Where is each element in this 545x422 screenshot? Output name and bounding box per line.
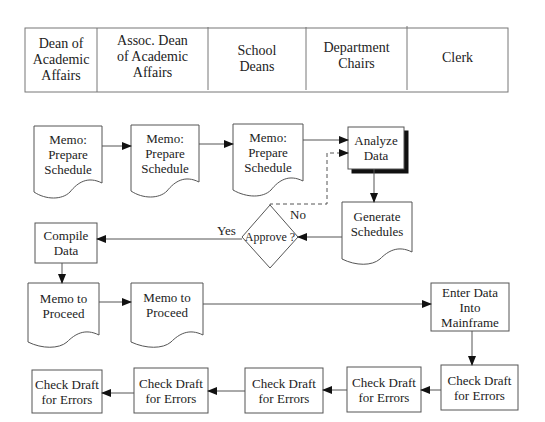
header-school-deans: School Deans [208,27,306,90]
memo-prepare-2-label: Memo: Prepare Schedule [131,127,199,179]
memo-proceed-1-label: Memo to Proceed [28,286,99,326]
enter-data-label: Enter Data Into Mainframe [431,283,509,331]
header-clerk: Clerk [407,26,508,90]
header-dean-academic-affairs: Dean of Academic Affairs [25,28,97,92]
generate-schedules-label: Generate Schedules [342,204,412,244]
memo-prepare-1-label: Memo: Prepare Schedule [34,128,102,180]
header-assoc-dean: Assoc. Dean of Academic Affairs [97,27,208,87]
check-draft-4-label: Check Draft for Errors [347,367,421,412]
compile-data-label: Compile Data [35,223,97,263]
check-draft-3-label: Check Draft for Errors [245,368,323,413]
analyze-data-label: Analyze Data [348,127,404,169]
memo-prepare-3-label: Memo: Prepare Schedule [233,126,303,178]
check-draft-1-label: Check Draft for Errors [32,370,102,413]
header-department-chairs: Department Chairs [306,26,407,86]
check-draft-5-label: Check Draft for Errors [441,365,518,410]
yes-edge-label: Yes [217,224,236,238]
check-draft-2-label: Check Draft for Errors [134,368,208,413]
approve-label: Approve ? [242,229,298,245]
no-edge-label: No [290,208,306,222]
memo-proceed-2-label: Memo to Proceed [131,285,203,325]
